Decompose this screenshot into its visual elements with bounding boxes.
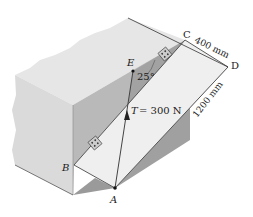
- label-b: B: [61, 162, 69, 173]
- angle-label: 25°: [137, 71, 155, 82]
- label-c: C: [183, 29, 191, 40]
- point-a: [113, 186, 117, 190]
- label-a: A: [109, 194, 117, 205]
- label-e: E: [126, 57, 135, 68]
- plate-wall-diagram: E C D B A 25° T = 300 N 400 mm 1200 mm: [0, 0, 253, 217]
- point-e: [131, 69, 134, 72]
- tension-value: = 300 N: [139, 105, 182, 116]
- label-d: D: [231, 60, 239, 71]
